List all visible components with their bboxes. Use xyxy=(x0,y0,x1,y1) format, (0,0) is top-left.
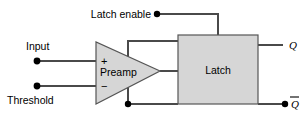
input-terminal-dot[interactable] xyxy=(34,58,41,65)
threshold-label: Threshold xyxy=(7,94,54,106)
input-label: Input xyxy=(26,40,49,52)
figure-canvas: Latch enable Input Threshold + − Preamp … xyxy=(0,0,303,120)
wire-preamp-top-feedback xyxy=(128,41,178,62)
preamp-minus-sign: − xyxy=(101,80,107,92)
q-output-label: Q xyxy=(289,39,297,51)
latch-enable-terminal-dot[interactable] xyxy=(154,11,160,17)
preamp-bottom-feedback-junction-dot xyxy=(125,101,131,107)
wire-latch-enable-to-latch xyxy=(157,14,218,35)
latch-enable-label: Latch enable xyxy=(91,8,151,20)
wire-preamp-bottom-feedback xyxy=(128,86,178,104)
latch-label: Latch xyxy=(205,64,231,76)
circuit-diagram: Latch enable Input Threshold + − Preamp … xyxy=(0,0,303,120)
q-bar-terminal-dot[interactable] xyxy=(282,101,288,107)
q-bar-output-label: Q xyxy=(291,98,299,110)
preamp-label: Preamp xyxy=(100,66,137,78)
threshold-terminal-dot[interactable] xyxy=(34,83,41,90)
q-bar-output-label-group: Q xyxy=(290,97,299,110)
